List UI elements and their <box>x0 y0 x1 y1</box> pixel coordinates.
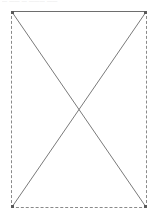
corner-marker-top-right <box>144 11 147 14</box>
corner-marker-bottom-left <box>11 205 14 208</box>
screen-canvas: — —— — ——— —— <box>0 0 156 218</box>
diagonal-tl-br-line <box>12 12 146 207</box>
diagonal-tr-bl-line <box>12 12 146 207</box>
corner-marker-top-left <box>11 11 14 14</box>
alt-text-caption: — —— — ——— —— <box>2 0 102 4</box>
placeholder-cross-icon <box>12 12 146 207</box>
broken-image-placeholder[interactable] <box>11 11 147 208</box>
corner-marker-bottom-right <box>144 205 147 208</box>
